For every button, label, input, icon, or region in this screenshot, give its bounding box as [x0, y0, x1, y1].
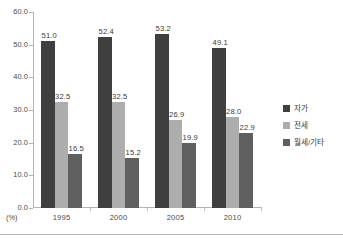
bar: 16.5 [68, 154, 82, 208]
legend-label: 전세 [294, 121, 308, 130]
footer-divider [0, 234, 343, 235]
plot-area: 51.032.516.552.432.515.253.226.919.949.1… [33, 12, 261, 208]
bar-value-label: 51.0 [42, 31, 57, 40]
x-axis-tick-label: 2010 [204, 212, 261, 224]
bar: 32.5 [112, 102, 126, 208]
legend-label: 자가 [294, 104, 308, 113]
bar: 49.1 [212, 48, 226, 208]
x-axis-tick-label: 2000 [90, 212, 147, 224]
bar-value-label: 26.9 [169, 110, 184, 119]
x-axis-tick-label: 1995 [33, 212, 90, 224]
bar-chart: 60.050.040.030.020.010.00.0 51.032.516.5… [0, 0, 343, 241]
x-axis-tick-mark [147, 207, 148, 211]
bar: 26.9 [169, 120, 183, 208]
bar-value-label: 32.5 [55, 92, 70, 101]
legend: 자가전세월세/기타 [283, 100, 343, 151]
bar-value-label: 49.1 [213, 38, 228, 47]
bar: 52.4 [98, 37, 112, 208]
bar: 51.0 [41, 41, 55, 208]
legend-swatch-icon [283, 105, 290, 112]
legend-item: 전세 [283, 117, 343, 134]
bar: 32.5 [55, 102, 69, 208]
bar-value-label: 22.9 [240, 123, 255, 132]
bar: 53.2 [155, 34, 169, 208]
legend-swatch-icon [283, 122, 290, 129]
bar-value-label: 28.0 [226, 107, 241, 116]
x-axis-tick-mark [204, 207, 205, 211]
bar: 15.2 [125, 158, 139, 208]
bar-value-label: 15.2 [126, 148, 141, 157]
legend-item: 월세/기타 [283, 134, 343, 151]
axis-unit-label: (%) [6, 212, 18, 224]
x-axis-tick-label: 2005 [147, 212, 204, 224]
legend-label: 월세/기타 [294, 138, 324, 147]
bar: 19.9 [182, 143, 196, 208]
bar-value-label: 32.5 [112, 92, 127, 101]
x-axis-tick-mark [90, 207, 91, 211]
bar-value-label: 53.2 [156, 24, 171, 33]
legend-item: 자가 [283, 100, 343, 117]
bar-value-label: 16.5 [69, 144, 84, 153]
legend-swatch-icon [283, 139, 290, 146]
bar: 28.0 [226, 117, 240, 208]
y-axis-tick-mark [29, 208, 33, 209]
bar: 22.9 [239, 133, 253, 208]
x-axis-tick-mark [261, 207, 262, 211]
bar-value-label: 52.4 [99, 27, 114, 36]
bar-value-label: 19.9 [183, 133, 198, 142]
